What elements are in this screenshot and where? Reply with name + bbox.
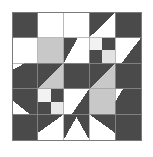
cell-r3c2-triangle-dark-right [64, 89, 90, 115]
cell-r3c1-quarter-br-light [51, 102, 64, 115]
cell-r3c1-four-patch-bottom [38, 89, 64, 115]
cell-r3c0-triangle-dark [12, 89, 38, 115]
cell-r3c1-quarter-bl-dark [38, 102, 51, 115]
cell-r4c1-triangle-dark-top [38, 114, 64, 140]
cell-r2c2-center-dark [64, 63, 90, 89]
cell-r4c0-corner-dark [12, 114, 38, 140]
cell-r1c3-four-patch-top [89, 38, 115, 64]
cell-r4c2-triangle-dark [64, 114, 90, 140]
cell-r0c0-corner-dark [12, 12, 38, 38]
cell-r0c2-white [64, 12, 90, 38]
cell-r0c3-half-square-triangle [89, 12, 115, 38]
quilt-row-1 [12, 38, 141, 64]
cell-r3c3-light [89, 89, 115, 115]
quilt-block-figure [0, 0, 153, 157]
cell-r0c4-corner-dark [115, 12, 141, 38]
quilt-row-0 [12, 12, 141, 38]
cell-r3c1-quarter-tr-dark [51, 89, 64, 102]
cell-r3c4-triangle-dark [115, 89, 141, 115]
cell-r1c0-white [12, 38, 38, 64]
cell-r0c1-white [38, 12, 64, 38]
cell-r1c3-quarter-tl-white [89, 38, 102, 51]
cell-r2c1-triangle-dark-top [38, 63, 64, 89]
quilt-row-3 [12, 89, 141, 115]
cell-r4c4-corner-dark [115, 114, 141, 140]
cell-r4c3-triangle-dark-top [89, 114, 115, 140]
quilt-row-2 [12, 63, 141, 89]
cell-r2c4-dark [115, 63, 141, 89]
cell-r1c3-quarter-tr-dark [102, 38, 115, 51]
quilt-block [12, 12, 141, 140]
cell-r1c3-quarter-bl-dark [89, 50, 102, 63]
cell-r2c0-triangle-dark [12, 63, 38, 89]
cell-r2c3-triangle-light [89, 63, 115, 89]
cell-r1c3-quarter-br-light [102, 50, 115, 63]
quilt-row-4 [12, 114, 141, 140]
cell-r3c1-quarter-tl-white [38, 89, 51, 102]
cell-r1c1-light [38, 38, 64, 64]
cell-r1c2-triangle-dark-left [64, 38, 90, 64]
cell-r1c4-triangle-dark-right [115, 38, 141, 64]
quilt-canvas [0, 0, 153, 157]
